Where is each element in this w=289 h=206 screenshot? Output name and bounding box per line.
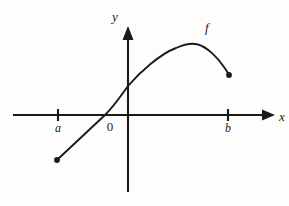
graph-canvas: y x 0 a b f — [0, 0, 289, 206]
function-curve-f — [57, 44, 229, 160]
tick-label-a: a — [55, 121, 61, 135]
y-axis-label: y — [110, 9, 118, 24]
curve-endpoint-left-dot — [54, 157, 60, 163]
curve-endpoint-right-dot — [226, 72, 232, 78]
x-axis-arrowhead-icon — [262, 110, 275, 121]
y-axis-arrowhead-icon — [123, 26, 134, 40]
origin-label: 0 — [107, 119, 114, 134]
tick-label-b: b — [225, 121, 231, 135]
curve-label-f: f — [205, 20, 211, 35]
x-axis-label: x — [278, 109, 285, 124]
graph-figure: y x 0 a b f — [0, 0, 289, 206]
